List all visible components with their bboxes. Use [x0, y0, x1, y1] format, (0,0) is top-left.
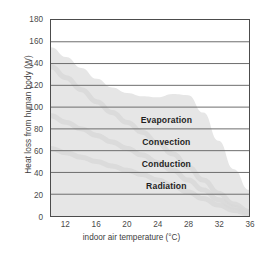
x-tick-label: 20 — [122, 220, 131, 229]
x-tick-label: 24 — [153, 220, 162, 229]
x-tick-label: 32 — [215, 220, 224, 229]
x-tick-label: 16 — [92, 220, 101, 229]
heat-loss-area-chart: Heat loss from human body (W) 0204060801… — [0, 0, 263, 254]
x-tick-label: 12 — [61, 220, 70, 229]
x-axis-title: indoor air temperature (°C) — [0, 233, 263, 242]
x-axis-tick-labels: 12162024283236 — [0, 0, 263, 254]
x-tick-label: 28 — [184, 220, 193, 229]
x-tick-label: 36 — [245, 220, 254, 229]
